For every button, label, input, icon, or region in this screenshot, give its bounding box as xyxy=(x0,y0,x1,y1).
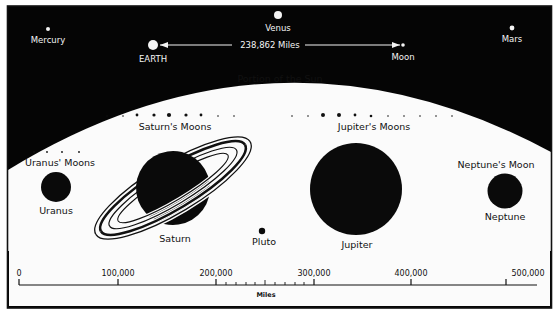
uranus-moons-label: Uranus' Moons xyxy=(25,157,95,168)
scale-tick-label: 500,000 xyxy=(511,269,544,278)
pluto-label: Pluto xyxy=(252,236,276,247)
scale-tick-label: 0 xyxy=(16,269,21,278)
venus-dot-icon xyxy=(274,11,282,19)
mars-dot-icon xyxy=(510,26,515,31)
distance-label: 238,862 Miles xyxy=(240,40,300,50)
jupiter-planet-icon xyxy=(310,143,402,235)
scale-tick-label: 100,000 xyxy=(101,269,134,278)
earth-dot-icon xyxy=(148,40,158,50)
mercury-label: Mercury xyxy=(31,35,65,45)
neptunes-moon-label: Neptune's Moon xyxy=(457,159,534,170)
moon-dot-icon xyxy=(401,43,405,47)
scale-tick-label: 200,000 xyxy=(199,269,232,278)
scale-tick-label: 300,000 xyxy=(297,269,330,278)
solar-system-scale-diagram: Portion of the Sun Mercury Venus EARTH 2… xyxy=(0,0,557,314)
mercury-dot-icon xyxy=(46,27,50,31)
mars-label: Mars xyxy=(502,34,523,44)
neptune-planet-icon xyxy=(488,174,523,209)
venus-label: Venus xyxy=(265,23,291,33)
neptune-label: Neptune xyxy=(485,211,526,222)
scale-tick-label: 400,000 xyxy=(394,269,427,278)
pluto-planet-icon xyxy=(259,228,265,234)
scale-unit-label: Miles xyxy=(256,291,275,299)
saturns-moons-label: Saturn's Moons xyxy=(139,121,212,132)
uranus-planet-icon xyxy=(41,172,71,202)
moon-label: Moon xyxy=(391,52,414,62)
saturn-label: Saturn xyxy=(159,233,190,244)
scale-panel xyxy=(9,250,550,306)
sun-title: Portion of the Sun xyxy=(237,73,322,84)
earth-label: EARTH xyxy=(139,54,167,64)
jupiter-label: Jupiter xyxy=(341,239,373,250)
uranus-label: Uranus xyxy=(39,205,73,216)
jupiters-moons-label: Jupiter's Moons xyxy=(337,121,410,132)
